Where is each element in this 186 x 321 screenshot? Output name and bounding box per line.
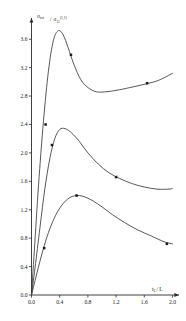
y-tick-label-0.4: 0.4 [21, 264, 28, 270]
curve-upper-curve [32, 30, 173, 295]
marker-middle-curve-0 [51, 144, 54, 147]
y-tick-label-1.6: 1.6 [21, 178, 28, 184]
marker-lower-curve-1 [75, 194, 78, 197]
x-tick-label-0.4: 0.4 [56, 299, 63, 305]
marker-middle-curve-1 [115, 176, 118, 179]
y-label-numerator-sub: tot [40, 16, 44, 20]
x-axis-label: tL/ L [152, 286, 163, 294]
y-tick-label-3.2: 3.2 [21, 65, 28, 71]
x-tick-label-0.0: 0.0 [28, 299, 35, 305]
data-curves-group [32, 30, 173, 295]
y-label-numerator: σtot [37, 13, 44, 21]
x-label-sub: L [154, 289, 156, 293]
curve-middle-curve [32, 128, 173, 295]
x-label-text: tL/ L [152, 286, 163, 294]
axes-group [30, 18, 179, 297]
y-tick-label-0.0: 0.0 [21, 292, 28, 298]
x-axis-arrowhead [174, 293, 179, 297]
chart-figure: 0.00.40.81.21.62.00.00.40.81.21.62.02.42… [0, 0, 186, 321]
y-label-denominator-sub: 11 [56, 20, 60, 24]
marker-upper-curve-2 [146, 82, 149, 85]
y-axis-label: σtot/σ11(1,1) [37, 13, 68, 24]
x-label-tail: / L [157, 286, 163, 292]
tick-marks-group [29, 39, 173, 297]
line-chart-canvas: 0.00.40.81.21.62.00.00.40.81.21.62.02.42… [0, 0, 186, 321]
x-tick-label-0.8: 0.8 [84, 299, 91, 305]
y-tick-label-1.2: 1.2 [21, 207, 28, 213]
marker-lower-curve-0 [43, 247, 46, 250]
y-label-slash: / [50, 16, 52, 22]
x-tick-label-1.6: 1.6 [141, 299, 148, 305]
marker-upper-curve-0 [44, 123, 47, 126]
y-tick-label-0.8: 0.8 [21, 235, 28, 241]
x-tick-label-1.2: 1.2 [113, 299, 120, 305]
y-label-denominator-sup: (1,1) [60, 16, 68, 21]
x-tick-label-2.0: 2.0 [169, 299, 176, 305]
y-tick-label-3.6: 3.6 [21, 36, 28, 42]
y-tick-label-2.4: 2.4 [21, 121, 28, 127]
y-tick-label-2.0: 2.0 [21, 150, 28, 156]
tick-labels-group: 0.00.40.81.21.62.00.00.40.81.21.62.02.42… [21, 36, 177, 305]
marker-lower-curve-2 [166, 243, 169, 246]
y-axis-arrowhead [30, 18, 34, 22]
curve-lower-curve [32, 196, 173, 295]
marker-upper-curve-1 [70, 54, 73, 57]
y-label-denominator: σ11(1,1) [54, 16, 68, 24]
y-tick-label-2.8: 2.8 [21, 93, 28, 99]
